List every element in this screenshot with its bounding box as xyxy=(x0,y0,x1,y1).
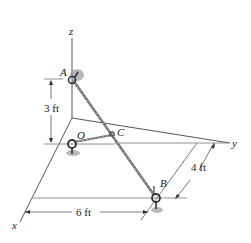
anchor-O-shadow xyxy=(66,150,80,156)
dim-3ft-arrow-top xyxy=(49,80,53,85)
point-O-label: O xyxy=(77,129,85,141)
x-axis xyxy=(20,118,72,222)
y-axis xyxy=(72,118,230,143)
point-B-label: B xyxy=(160,177,167,189)
y-axis-label: y xyxy=(231,137,237,149)
x-axis-label: x xyxy=(11,219,17,231)
dim-3ft-arrow-bottom xyxy=(49,138,53,143)
dim-3ft-label: 3 ft xyxy=(44,102,59,114)
statics-diagram: z y x 3 ft 4 ft 6 ft C A O B xyxy=(0,0,251,243)
point-C-label: C xyxy=(117,126,125,138)
dim-6ft-label: 6 ft xyxy=(76,206,91,218)
z-axis-label: z xyxy=(68,25,74,37)
dim-4ft-label: 4 ft xyxy=(191,161,206,173)
anchor-B-shadow xyxy=(151,207,163,213)
point-A-label: A xyxy=(59,66,67,78)
